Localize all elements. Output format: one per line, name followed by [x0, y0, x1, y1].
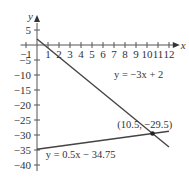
x-tick-label: 4 [78, 48, 84, 60]
x-axis-label: x [180, 39, 186, 51]
annotation-2: y = 0.5x − 34.75 [46, 149, 116, 160]
annotation-3: (10.5, −29.5) [117, 119, 172, 131]
x-tick-label: 3 [67, 48, 73, 60]
y-tick-label: −35 [14, 144, 32, 156]
series-line-2 [37, 131, 169, 149]
x-tick-label: 10 [142, 48, 154, 60]
x-tick-label: 9 [133, 48, 139, 60]
intersection-point [150, 131, 154, 135]
y-tick-label: −5 [19, 54, 31, 66]
chart: xy−11234567891011125−5−10−15−20−25−30−35… [0, 0, 189, 188]
y-tick-label: −15 [14, 84, 32, 96]
y-tick-label: −25 [14, 114, 32, 126]
y-tick-label: −10 [14, 69, 32, 81]
x-tick-label: 5 [89, 48, 95, 60]
y-tick-label: −20 [14, 99, 32, 111]
y-tick-label: −30 [14, 129, 32, 141]
y-tick-label: 5 [26, 24, 32, 36]
x-tick-label: 2 [56, 48, 62, 60]
x-tick-label: 7 [111, 48, 117, 60]
y-tick-label: −40 [14, 159, 32, 171]
annotation-1: y = −3x + 2 [114, 69, 163, 80]
x-tick-label: 1 [45, 48, 51, 60]
x-tick-label: 8 [122, 48, 128, 60]
y-axis-arrow-icon [34, 15, 40, 22]
y-axis-label: y [27, 10, 33, 22]
x-tick-label: 11 [153, 48, 164, 60]
x-tick-label: 12 [164, 48, 175, 60]
x-tick-label: 6 [100, 48, 106, 60]
